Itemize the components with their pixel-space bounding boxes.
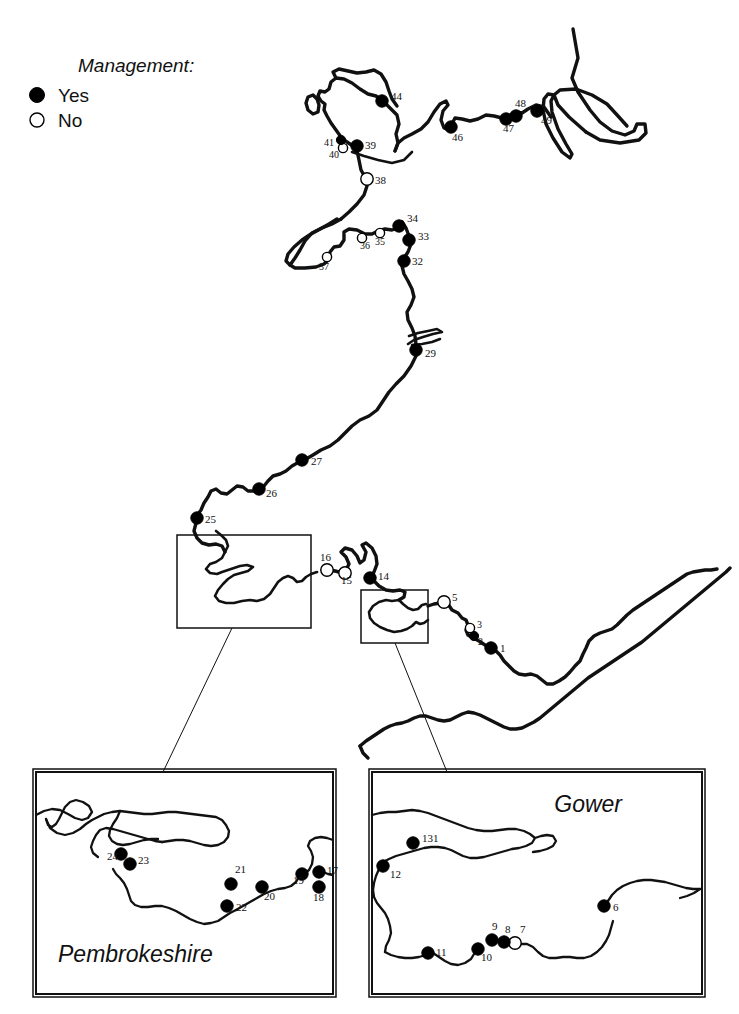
site-label-26: 26 [266, 487, 278, 499]
site-label-24: 24 [107, 850, 119, 862]
site-label-19: 19 [293, 874, 305, 886]
site-marker-23[interactable] [124, 858, 136, 870]
site-marker-7[interactable] [509, 937, 521, 949]
site-marker-41[interactable] [336, 135, 345, 144]
site-label-131: 131 [422, 832, 439, 844]
legend: Management: Yes No [30, 55, 195, 131]
site-label-44: 44 [391, 90, 403, 102]
site-marker-25[interactable] [191, 512, 203, 524]
site-label-46: 46 [452, 131, 464, 143]
site-markers-main: 1235141516252627293233343536373839404144… [191, 90, 553, 654]
pembrokeshire-locator-box [177, 535, 311, 628]
site-marker-14[interactable] [364, 572, 376, 584]
site-label-18: 18 [313, 891, 325, 903]
site-marker-1[interactable] [485, 642, 497, 654]
site-label-1: 1 [500, 642, 506, 654]
site-label-6: 6 [613, 901, 619, 913]
site-label-41: 41 [324, 137, 334, 148]
site-marker-9[interactable] [486, 934, 498, 946]
gower-inset-frame [372, 772, 702, 994]
site-label-5: 5 [452, 591, 458, 603]
site-label-48: 48 [515, 97, 527, 109]
gower-coast-east [608, 880, 700, 901]
site-label-10: 10 [481, 951, 493, 963]
site-markers-pembrokeshire: 1718192021222324 [107, 848, 339, 913]
coastline-bristol-south-tail [360, 746, 368, 758]
gower-coast-burry-inlet [383, 847, 512, 862]
coastline-bristol-south-shore [360, 568, 730, 746]
site-marker-21[interactable] [225, 878, 237, 890]
site-marker-26[interactable] [253, 483, 265, 495]
site-marker-38[interactable] [361, 173, 373, 185]
gower-coast-south-west [385, 952, 426, 958]
coastline-anglesey-small-bay [306, 95, 319, 114]
legend-symbol-yes [30, 88, 45, 103]
site-marker-33[interactable] [403, 234, 415, 246]
site-label-8: 8 [505, 923, 511, 935]
site-label-47: 47 [503, 122, 515, 134]
site-label-16: 16 [320, 551, 332, 563]
site-marker-131[interactable] [407, 837, 419, 849]
site-label-21: 21 [235, 863, 246, 875]
site-label-15: 15 [341, 574, 353, 586]
pembs-coast-north-west [36, 800, 92, 827]
gower-coast-north-hook [533, 835, 556, 852]
inset-title-pembrokeshire: Pembrokeshire [58, 941, 213, 967]
coastline-north-49-44 [395, 101, 551, 151]
site-label-49: 49 [541, 114, 553, 126]
site-label-23: 23 [138, 854, 150, 866]
site-marker-29[interactable] [410, 344, 422, 356]
site-marker-8[interactable] [498, 936, 510, 948]
site-marker-16[interactable] [321, 564, 333, 576]
site-label-22: 22 [236, 901, 247, 913]
pembs-coast-north-arm [109, 811, 158, 845]
site-marker-34[interactable] [393, 220, 405, 232]
site-label-20: 20 [264, 890, 276, 902]
site-label-17: 17 [327, 864, 339, 876]
site-marker-17[interactable] [313, 866, 325, 878]
site-label-7: 7 [520, 923, 526, 935]
coastline-gower-locator-north [399, 600, 426, 610]
site-marker-27[interactable] [296, 454, 308, 466]
gower-inset-group [369, 769, 705, 997]
site-marker-3[interactable] [465, 623, 474, 632]
legend-label-yes: Yes [58, 85, 89, 106]
site-label-27: 27 [311, 455, 323, 467]
legend-label-no: No [58, 110, 82, 131]
site-marker-6[interactable] [598, 900, 610, 912]
gower-coast-ne-shore [680, 889, 700, 898]
site-label-2: 2 [478, 636, 483, 647]
gower-coast-west [373, 869, 391, 952]
site-label-37: 37 [319, 261, 329, 272]
site-marker-39[interactable] [351, 140, 363, 152]
site-label-33: 33 [418, 230, 430, 242]
site-label-9: 9 [492, 920, 498, 932]
site-marker-22[interactable] [221, 900, 233, 912]
leader-lines-group [163, 628, 447, 772]
coastline-llyn-peninsula [290, 219, 402, 268]
gower-coast-south-2 [520, 921, 613, 958]
coastline-27-to-26 [264, 462, 299, 486]
site-marker-12[interactable] [377, 860, 389, 872]
coastline-dee-outer [572, 29, 646, 143]
site-label-39: 39 [365, 139, 377, 151]
coastline-site-map: 1235141516252627293233343536373839404144… [0, 0, 739, 1014]
site-label-14: 14 [378, 570, 390, 582]
site-marker-32[interactable] [398, 255, 410, 267]
site-label-29: 29 [425, 347, 437, 359]
inset-title-gower: Gower [554, 791, 623, 817]
site-marker-48[interactable] [510, 110, 522, 122]
coastline-29-to-25 [306, 356, 416, 459]
site-marker-11[interactable] [422, 947, 434, 959]
gower-leader-line [395, 643, 447, 772]
legend-title: Management: [78, 55, 194, 76]
site-label-35: 35 [375, 236, 385, 247]
pembrokeshire-leader-line [163, 628, 232, 772]
site-label-32: 32 [412, 255, 423, 267]
site-marker-44[interactable] [376, 95, 388, 107]
gower-inset-frame-outer [369, 769, 705, 997]
map-svg-canvas: 1235141516252627293233343536373839404144… [0, 0, 739, 1014]
coastline-pembs-locator-outline [206, 552, 317, 603]
site-marker-5[interactable] [438, 596, 450, 608]
coastline-26-to-25 [198, 486, 254, 514]
